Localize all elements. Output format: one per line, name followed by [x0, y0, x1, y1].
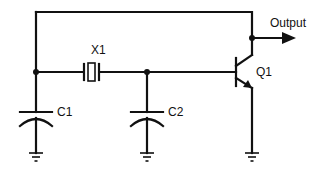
ground-icon-c1 [29, 153, 43, 161]
junction-dot-left [33, 69, 39, 75]
label-output: Output [270, 17, 306, 29]
ground-icon-q1 [245, 153, 259, 161]
label-c2: C2 [168, 106, 183, 118]
ground-icon-c2 [140, 153, 154, 161]
output-arrow-icon [252, 32, 296, 44]
transistor-q1-icon [236, 55, 252, 88]
label-x1: X1 [91, 44, 106, 56]
feedback-wire [36, 12, 252, 55]
capacitor-c2-icon [131, 112, 163, 153]
crystal-x1-icon [84, 63, 99, 81]
capacitor-c1-icon [20, 112, 52, 153]
circuit-diagram: X1 C1 C2 Q1 Output [0, 0, 321, 171]
label-c1: C1 [57, 106, 72, 118]
label-q1: Q1 [256, 66, 272, 78]
